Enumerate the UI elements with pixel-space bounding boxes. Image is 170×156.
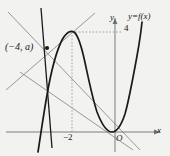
x-axis-label: x: [157, 126, 161, 135]
point-label: (−4, a): [5, 42, 33, 52]
y-tick-label-4: 4: [124, 24, 129, 33]
x-tick-label-minus-2: −2: [63, 133, 73, 142]
function-label: y=f(x): [128, 12, 151, 21]
origin-label: O: [116, 134, 123, 143]
math-figure: (−4, a) y x O 4 −2 y=f(x): [0, 0, 170, 156]
cubic-curve: [38, 22, 142, 152]
point-marker: [45, 46, 49, 50]
y-axis-label: y: [110, 13, 114, 22]
graph-canvas: [0, 0, 170, 156]
